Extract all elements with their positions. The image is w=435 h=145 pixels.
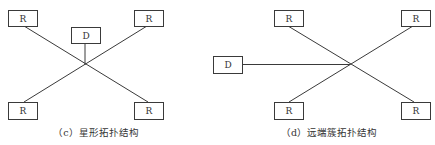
node-r-top-left: R — [275, 11, 304, 27]
node-r-bottom-right: R — [402, 103, 431, 120]
node-d-left: D — [214, 57, 243, 74]
node-label: R — [413, 106, 420, 116]
caption-remote-cluster-topology: （d）远端簇拓扑结构 — [281, 127, 377, 138]
node-label: R — [413, 14, 420, 24]
node-r-top-right: R — [135, 11, 164, 27]
node-r-top-left: R — [9, 11, 38, 27]
node-d-center: D — [72, 28, 101, 44]
node-label: R — [20, 14, 27, 24]
node-label: R — [20, 106, 27, 116]
node-label: D — [82, 31, 89, 41]
topology-figure: R R D R R （c）星形拓扑结构 R R — [0, 0, 435, 145]
node-label: D — [224, 60, 231, 70]
caption-star-topology: （c）星形拓扑结构 — [53, 127, 138, 138]
node-label: R — [286, 106, 293, 116]
node-r-bottom-left: R — [9, 103, 38, 120]
node-label: R — [146, 14, 153, 24]
node-r-top-right: R — [402, 11, 431, 27]
node-label: R — [286, 14, 293, 24]
node-label: R — [146, 106, 153, 116]
node-r-bottom-left: R — [275, 103, 304, 120]
diagram-remote-cluster-topology: R R D R R （d）远端簇拓扑结构 — [214, 11, 431, 139]
diagram-star-topology: R R D R R （c）星形拓扑结构 — [9, 11, 164, 139]
node-r-bottom-right: R — [135, 103, 164, 120]
